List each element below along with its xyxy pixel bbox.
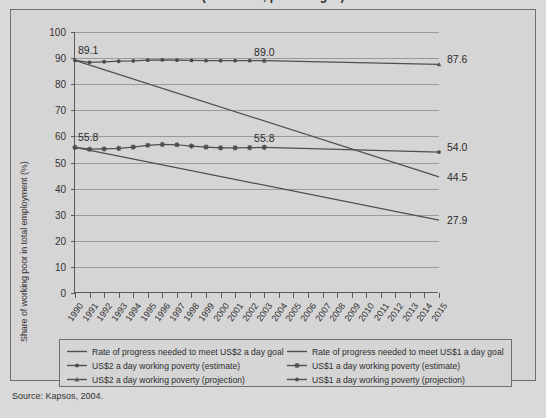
label-us1-proj-end: 54.0 (447, 141, 467, 153)
label-us1-start: 55.8 (78, 131, 98, 143)
x-tick-mark (337, 293, 338, 298)
legend-label: US$2 a day working poverty (estimate) (92, 361, 240, 371)
y-tick-label: 40 (55, 183, 66, 194)
y-tick-label: 20 (55, 235, 66, 246)
chart-frame: Share of working poor in total employmen… (10, 9, 536, 381)
x-tick-mark (148, 293, 149, 298)
x-tick-mark (235, 293, 236, 298)
y-tick-label: 80 (55, 79, 66, 90)
y-tick-label: 0 (60, 288, 66, 299)
y-tick-label: 100 (49, 27, 66, 38)
x-tick-mark (119, 293, 120, 298)
legend-column-left: Rate of progress needed to meet US$2 a d… (66, 345, 284, 387)
x-tick-mark (366, 293, 367, 298)
x-tick-mark (133, 293, 134, 298)
x-tick-mark (191, 293, 192, 298)
legend-marker-icon (66, 360, 88, 371)
legend-marker-icon (286, 374, 308, 385)
x-tick-mark (162, 293, 163, 298)
legend-item[interactable]: US$2 a day working poverty (projection) (66, 373, 284, 386)
legend-label: US$1 a day working poverty (estimate) (312, 361, 460, 371)
chart-title-clipped: (1990-2015, percentages) (0, 0, 546, 7)
legend-item[interactable]: Rate of progress needed to meet US$2 a d… (66, 345, 284, 358)
label-us2-mid: 89.0 (254, 46, 274, 58)
legend-item[interactable]: US$2 a day working poverty (estimate) (66, 359, 284, 372)
y-tick-label: 10 (55, 261, 66, 272)
x-tick-mark (424, 293, 425, 298)
y-tick-label: 30 (55, 209, 66, 220)
legend-item[interactable]: Rate of progress needed to meet US$1 a d… (286, 345, 504, 358)
legend-marker-icon (286, 346, 308, 357)
value-annotations: 89.155.889.055.887.654.044.527.9 (75, 32, 438, 292)
x-tick-mark (250, 293, 251, 298)
source-note: Source: Kapsos, 2004. (12, 391, 103, 401)
x-tick-mark (381, 293, 382, 298)
legend: Rate of progress needed to meet US$2 a d… (59, 339, 512, 387)
x-tick-mark (308, 293, 309, 298)
plot-area: 0102030405060708090100 19901991199219931… (74, 32, 438, 293)
x-tick-mark (75, 293, 76, 298)
label-us2-proj-end: 87.6 (447, 53, 467, 65)
legend-marker-icon (66, 346, 88, 357)
x-tick-mark (221, 293, 222, 298)
x-tick-mark (206, 293, 207, 298)
y-tick-label: 60 (55, 131, 66, 142)
figure-root: (1990-2015, percentages) Share of workin… (0, 0, 546, 418)
x-tick-mark (352, 293, 353, 298)
legend-label: US$2 a day working poverty (projection) (92, 375, 245, 385)
x-tick-mark (395, 293, 396, 298)
x-tick-mark (293, 293, 294, 298)
legend-item[interactable]: US$1 a day working poverty (estimate) (286, 359, 504, 372)
y-tick-label: 70 (55, 105, 66, 116)
x-tick-mark (104, 293, 105, 298)
legend-label: US$1 a day working poverty (projection) (312, 375, 465, 385)
label-us2-goal-end: 44.5 (447, 171, 467, 183)
x-tick-mark (410, 293, 411, 298)
y-tick-label: 50 (55, 157, 66, 168)
x-tick-mark (279, 293, 280, 298)
legend-item[interactable]: US$1 a day working poverty (projection) (286, 373, 504, 386)
label-us2-start: 89.1 (78, 44, 98, 56)
x-tick-mark (90, 293, 91, 298)
chart-title-text: (1990-2015, percentages) (202, 0, 345, 3)
x-tick-mark (264, 293, 265, 298)
legend-marker-icon (66, 374, 88, 385)
legend-marker-icon (286, 360, 308, 371)
label-us1-goal-end: 27.9 (447, 214, 467, 226)
y-tick-label: 90 (55, 53, 66, 64)
x-tick-mark (177, 293, 178, 298)
x-tick-mark (439, 293, 440, 298)
y-axis-title: Share of working poor in total employmen… (19, 112, 35, 342)
legend-column-right: Rate of progress needed to meet US$1 a d… (286, 345, 504, 387)
legend-label: Rate of progress needed to meet US$1 a d… (312, 347, 504, 357)
label-us1-mid: 55.8 (254, 132, 274, 144)
legend-label: Rate of progress needed to meet US$2 a d… (92, 347, 284, 357)
x-tick-mark (323, 293, 324, 298)
